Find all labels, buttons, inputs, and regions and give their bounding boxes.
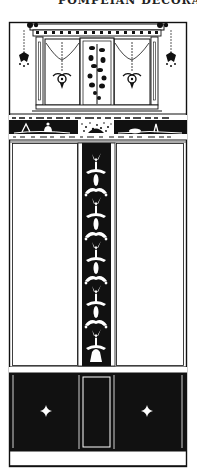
dado-dark-band	[9, 373, 187, 451]
middle-zone	[13, 143, 184, 366]
upper-zone	[19, 22, 176, 111]
dado-zone	[9, 367, 187, 451]
left-white-panel	[13, 144, 78, 366]
frieze-band	[9, 114, 187, 142]
right-white-panel	[117, 144, 184, 366]
wall-panel-illustration	[0, 0, 197, 472]
